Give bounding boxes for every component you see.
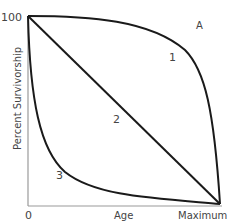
y-axis-label: Percent Survivorship — [12, 47, 23, 150]
x-min-label: 0 — [25, 209, 32, 222]
curve-1-label: 1 — [169, 51, 176, 64]
x-axis-label: Age — [114, 210, 133, 221]
survivorship-diagram: 100 Percent Survivorship 0 Age Maximum A… — [0, 0, 227, 224]
x-max-label: Maximum — [178, 210, 227, 221]
curve-2-label: 2 — [113, 113, 120, 126]
curve-3-label: 3 — [56, 169, 63, 182]
y-max-label: 100 — [1, 11, 22, 24]
panel-label: A — [196, 20, 203, 31]
